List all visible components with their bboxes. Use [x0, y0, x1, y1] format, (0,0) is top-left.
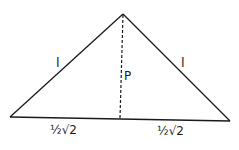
left-side-line [10, 14, 123, 117]
right-half-base-label: ½√2 [157, 125, 184, 137]
left-side-label: l [56, 56, 60, 69]
altitude-label: P [124, 70, 131, 82]
left-half-base-label: ½√2 [50, 124, 77, 136]
right-side-line [123, 14, 230, 121]
right-side-label: l [181, 56, 185, 69]
altitude-dashed-line [120, 15, 123, 118]
triangle-diagram [0, 0, 239, 150]
